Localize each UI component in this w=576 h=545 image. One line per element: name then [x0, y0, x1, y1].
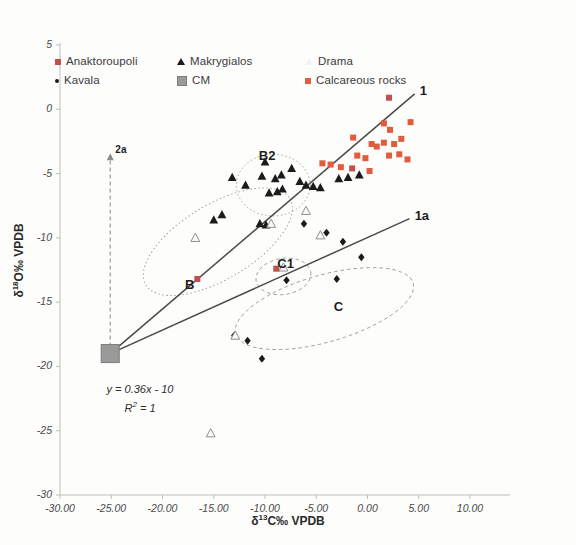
- dot-black-icon: [55, 79, 59, 83]
- annotation-b2: B2: [259, 148, 276, 163]
- point-makrygialos: [277, 170, 286, 178]
- trend-lines: [110, 94, 414, 354]
- legend: AnaktoroupoliMakrygialosDramaKavalaCMCal…: [55, 52, 455, 90]
- r-squared-suffix: = 1: [137, 402, 156, 414]
- legend-label: Drama: [318, 56, 353, 68]
- point-calcareous-rocks: [367, 168, 373, 174]
- point-drama: [267, 219, 276, 227]
- equation-line: y = 0.36x - 10: [70, 382, 210, 397]
- point-anaktoroupoli: [386, 95, 392, 101]
- point-makrygialos: [316, 183, 325, 191]
- legend-item-makrygialos[interactable]: Makrygialos: [177, 52, 305, 71]
- cluster-ellipses: [127, 154, 423, 366]
- point-calcareous-rocks: [408, 119, 414, 125]
- point-calcareous-rocks: [328, 162, 334, 168]
- y-axis-title: δ18O‰ VPDB: [11, 191, 26, 331]
- trend-line-1: [110, 94, 414, 354]
- legend-item-calcareous-rocks[interactable]: Calcareous rocks: [305, 71, 455, 90]
- point-kavala: [283, 276, 289, 284]
- legend-label: Calcareous rocks: [316, 75, 406, 87]
- point-kavala: [301, 220, 307, 228]
- point-makrygialos: [295, 177, 304, 185]
- y-tick-label: -30: [18, 488, 52, 500]
- square-red-icon: [55, 59, 61, 65]
- y-tick-label: -20: [18, 359, 52, 371]
- x-axis-title-prefix: δ: [251, 514, 258, 528]
- point-calcareous-rocks: [398, 136, 404, 142]
- point-makrygialos: [265, 188, 274, 196]
- y-tick-label: 5: [18, 38, 52, 50]
- point-makrygialos: [355, 170, 364, 178]
- triangle-filled-icon: [177, 58, 185, 65]
- annotation-2a: 2a: [115, 144, 126, 155]
- y-axis-title-prefix: δ: [12, 290, 26, 297]
- annotation-b: B: [185, 277, 194, 292]
- regression-equation: y = 0.36x - 10 R2 = 1: [70, 382, 210, 416]
- point-calcareous-rocks: [369, 141, 375, 147]
- point-calcareous-rocks: [381, 120, 387, 126]
- point-calcareous-rocks: [354, 153, 360, 159]
- point-makrygialos: [278, 184, 287, 192]
- x-axis-title-suffix: C‰ VPDB: [267, 514, 324, 528]
- point-drama: [206, 429, 215, 437]
- legend-label: Anaktoroupoli: [66, 56, 138, 68]
- point-makrygialos: [228, 173, 237, 181]
- square-gray-icon: [177, 76, 187, 86]
- point-makrygialos: [334, 174, 343, 182]
- legend-label: Makrygialos: [190, 56, 252, 68]
- point-makrygialos: [241, 181, 250, 189]
- y-axis-title-superscript: 18: [11, 281, 20, 290]
- point-makrygialos: [344, 173, 353, 181]
- legend-item-cm[interactable]: CM: [177, 71, 305, 90]
- point-calcareous-rocks: [319, 160, 325, 166]
- triangle-open-icon: [305, 58, 313, 65]
- point-makrygialos: [218, 210, 227, 218]
- point-drama: [302, 206, 311, 214]
- legend-label: Kavala: [64, 75, 100, 87]
- legend-item-drama[interactable]: Drama: [305, 52, 455, 71]
- point-kavala: [358, 253, 364, 261]
- point-calcareous-rocks: [404, 156, 410, 162]
- point-kavala: [244, 337, 250, 345]
- point-calcareous-rocks: [350, 135, 356, 141]
- point-drama: [316, 231, 325, 239]
- legend-label: CM: [192, 75, 210, 87]
- point-calcareous-rocks: [362, 155, 368, 161]
- vertical-arrow-2a: [107, 153, 114, 353]
- y-axis-title-suffix: O‰ VPDB: [12, 223, 26, 281]
- point-makrygialos: [209, 215, 218, 223]
- point-calcareous-rocks: [387, 127, 393, 133]
- point-anaktoroupoli: [194, 276, 200, 282]
- point-kavala: [259, 355, 265, 363]
- point-calcareous-rocks: [396, 151, 402, 157]
- point-kavala: [340, 238, 346, 246]
- point-makrygialos: [258, 172, 267, 180]
- annotation-1a: 1a: [415, 208, 429, 223]
- r-squared-line: R2 = 1: [70, 397, 210, 416]
- y-tick-label: -25: [18, 424, 52, 436]
- y-tick-label: -5: [18, 167, 52, 179]
- point-makrygialos: [287, 164, 296, 172]
- y-tick-label: 0: [18, 102, 52, 114]
- point-anaktoroupoli: [349, 165, 355, 171]
- point-drama: [191, 233, 200, 241]
- point-calcareous-rocks: [338, 164, 344, 170]
- point-cm: [101, 345, 119, 363]
- point-kavala: [323, 229, 329, 237]
- x-axis-title: δ13C‰ VPDB: [0, 513, 576, 528]
- ellipse-C: [227, 251, 423, 366]
- square-orange-icon: [305, 78, 311, 84]
- legend-item-kavala[interactable]: Kavala: [55, 71, 177, 90]
- isotope-scatter-figure: AnaktoroupoliMakrygialosDramaKavalaCMCal…: [0, 0, 576, 545]
- point-calcareous-rocks: [391, 141, 397, 147]
- legend-item-anaktoroupoli[interactable]: Anaktoroupoli: [55, 52, 177, 71]
- trend-line-1a: [110, 219, 409, 354]
- annotation-c1: C1: [277, 256, 294, 271]
- point-calcareous-rocks: [386, 153, 392, 159]
- point-kavala: [334, 275, 340, 283]
- point-calcareous-rocks: [381, 140, 387, 146]
- annotation-1: 1: [420, 83, 427, 98]
- point-calcareous-rocks: [374, 144, 380, 150]
- annotation-c: C: [334, 299, 343, 314]
